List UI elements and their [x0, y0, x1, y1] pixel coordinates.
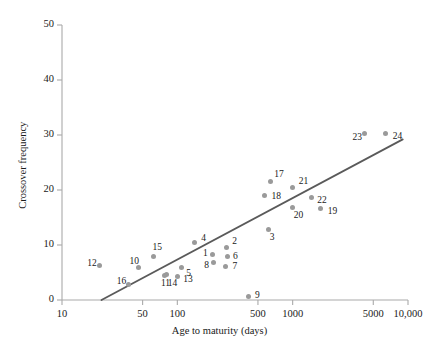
data-point-marker — [318, 206, 323, 211]
scatter-chart-figure: Age to maturity (days) Crossover frequen… — [0, 0, 439, 352]
x-axis-tick-label: 100 — [147, 309, 207, 320]
plot-canvas — [0, 0, 439, 352]
data-point-label: 12 — [87, 259, 97, 269]
data-point-label: 4 — [201, 234, 206, 244]
data-point-marker — [192, 240, 197, 245]
x-axis-tick-label: 10,000 — [378, 309, 438, 320]
data-point-label: 13 — [183, 275, 193, 285]
data-point-marker — [262, 193, 267, 198]
data-point-marker — [151, 254, 156, 259]
data-point-marker — [362, 131, 367, 136]
data-point-marker — [179, 265, 184, 270]
trend-line — [101, 139, 402, 300]
data-point-label: 8 — [204, 261, 209, 271]
x-axis-tick-label: 10 — [32, 309, 92, 320]
data-point-label: 18 — [272, 192, 282, 202]
data-point-label: 2 — [232, 237, 237, 247]
data-point-marker — [97, 263, 102, 268]
data-point-label: 20 — [294, 211, 304, 221]
data-point-label: 14 — [168, 279, 178, 289]
data-point-label: 6 — [233, 252, 238, 262]
y-axis-tick-label: 10 — [16, 239, 54, 250]
x-axis-title: Age to maturity (days) — [0, 326, 439, 337]
y-axis-tick-label: 50 — [16, 19, 54, 30]
data-point-label: 9 — [255, 291, 260, 301]
data-point-label: 7 — [233, 262, 238, 272]
data-point-label: 3 — [270, 233, 275, 243]
data-point-label: 21 — [299, 177, 309, 187]
data-point-marker — [223, 264, 228, 269]
x-axis-tick-label: 1000 — [263, 309, 323, 320]
data-point-marker — [225, 254, 230, 259]
y-axis-tick-label: 40 — [16, 74, 54, 85]
data-point-marker — [224, 245, 229, 250]
data-point-label: 15 — [152, 243, 162, 253]
data-point-label: 23 — [353, 133, 363, 143]
data-point-marker — [211, 260, 216, 265]
data-point-label: 1 — [203, 249, 208, 259]
data-point-marker — [246, 294, 251, 299]
data-point-label: 22 — [317, 196, 327, 206]
data-point-label: 17 — [274, 170, 284, 180]
y-axis-tick-label: 0 — [16, 294, 54, 305]
data-point-label: 24 — [393, 132, 403, 142]
data-point-label: 10 — [129, 257, 139, 267]
y-axis-tick-label: 20 — [16, 184, 54, 195]
y-axis-tick-label: 30 — [16, 129, 54, 140]
y-axis-title: Crossover frequency — [18, 90, 29, 240]
data-point-label: 16 — [117, 277, 127, 287]
data-point-marker — [290, 185, 295, 190]
data-point-marker — [309, 195, 314, 200]
data-point-label: 19 — [328, 207, 338, 217]
